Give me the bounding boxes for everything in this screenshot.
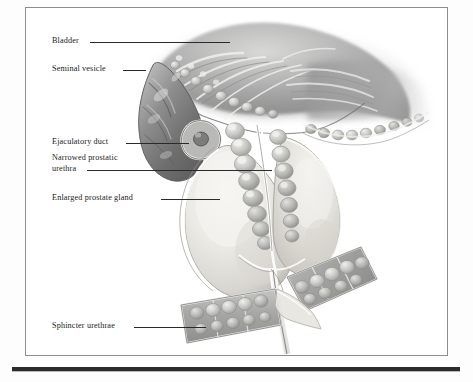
bottom-rule-shadow (12, 371, 460, 372)
leader-line-enlarged-prostate (161, 199, 220, 200)
figure-page: Bladder Seminal vesicle Ejaculatory duct… (0, 0, 473, 382)
label-narrowed-prostatic-urethra: Narrowed prostatic urethra (52, 153, 118, 174)
label-seminal-vesicle: Seminal vesicle (52, 64, 106, 75)
anatomical-illustration (25, 7, 448, 356)
label-sphincter-urethrae: Sphincter urethrae (52, 321, 115, 332)
sphincter-urethrae-left-band (181, 289, 281, 343)
leader-line-seminal-vesicle (123, 70, 146, 71)
label-ejaculatory-duct: Ejaculatory duct (52, 137, 108, 148)
label-bladder: Bladder (52, 36, 79, 47)
leader-line-sphincter-urethrae (134, 327, 206, 328)
leader-line-bladder (90, 42, 230, 43)
label-enlarged-prostate-gland: Enlarged prostate gland (52, 193, 133, 204)
leader-line-ejaculatory-duct (126, 143, 189, 144)
